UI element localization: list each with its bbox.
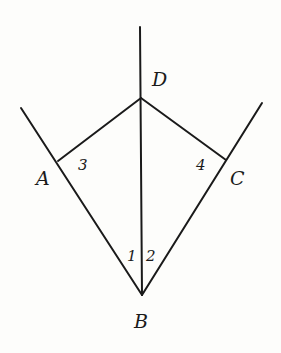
line-bd-extended: [140, 27, 142, 295]
segment-da: [58, 98, 141, 161]
ray-bc-extended: [142, 103, 262, 295]
label-point-c: C: [230, 167, 245, 189]
geometry-diagram: D A C B 3 4 1 2: [0, 0, 281, 353]
label-angle-3: 3: [78, 156, 88, 174]
label-angle-4: 4: [195, 156, 206, 174]
label-point-b: B: [133, 310, 148, 332]
ray-ba-extended: [21, 108, 142, 295]
label-angle-1: 1: [127, 247, 137, 265]
label-point-d: D: [151, 68, 167, 90]
diagram-svg: D A C B 3 4 1 2: [0, 0, 281, 353]
label-point-a: A: [34, 167, 50, 189]
label-angle-2: 2: [145, 247, 156, 265]
segment-dc: [141, 98, 226, 160]
